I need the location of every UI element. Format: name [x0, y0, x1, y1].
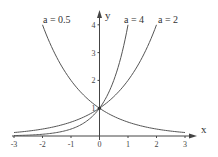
axes: x y: [12, 9, 207, 140]
y-axis-label: y: [105, 9, 111, 21]
curve-a-2: [14, 25, 157, 133]
y-tick-label: 2: [92, 76, 96, 85]
legend-label-a-2: a = 2: [158, 14, 178, 25]
x-axis-arrow-icon: [189, 134, 197, 139]
legend-label-a-4: a = 4: [124, 14, 144, 25]
y-axis-arrow-icon: [97, 10, 102, 18]
x-tick-label: -3: [11, 140, 18, 149]
y-tick-label: 4: [92, 21, 96, 30]
legend-label-a-0-5: a = 0.5: [43, 14, 71, 25]
x-tick-label: 2: [155, 140, 159, 149]
x-tick-label: 0: [98, 140, 102, 149]
exponential-chart: x y -3-2-101231234 a = 0.5 a = 4 a = 2: [0, 0, 218, 157]
y-tick-label: 3: [92, 49, 96, 58]
x-tick-label: -1: [68, 140, 75, 149]
x-tick-label: -2: [39, 140, 46, 149]
curve-a-0-5: [43, 25, 186, 133]
intersection-point: [98, 107, 101, 110]
x-axis-label: x: [201, 123, 207, 135]
x-tick-label: 1: [126, 140, 130, 149]
x-tick-label: 3: [183, 140, 187, 149]
